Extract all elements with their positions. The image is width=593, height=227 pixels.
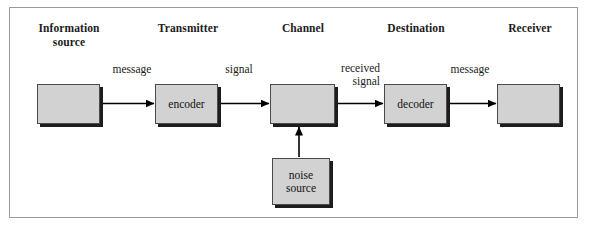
information-source-box[interactable] bbox=[37, 84, 100, 124]
header-transmitter: Transmitter bbox=[140, 22, 236, 36]
edge-label-message-2: message bbox=[440, 63, 500, 76]
header-destination: Destination bbox=[368, 22, 464, 36]
edge-label-received-signal: received signal bbox=[328, 62, 380, 88]
noise-source-box[interactable]: noise source bbox=[272, 158, 330, 205]
header-receiver: Receiver bbox=[482, 22, 578, 36]
encoder-box[interactable]: encoder bbox=[155, 84, 218, 124]
header-information-source: Information source bbox=[21, 22, 117, 49]
diagram-canvas: Information source Transmitter Channel D… bbox=[0, 0, 593, 227]
edge-label-message-1: message bbox=[102, 63, 162, 76]
header-channel: Channel bbox=[255, 22, 351, 36]
receiver-box[interactable] bbox=[497, 84, 560, 124]
channel-box[interactable] bbox=[270, 84, 335, 124]
decoder-box[interactable]: decoder bbox=[384, 84, 447, 124]
edge-label-signal: signal bbox=[213, 63, 265, 76]
